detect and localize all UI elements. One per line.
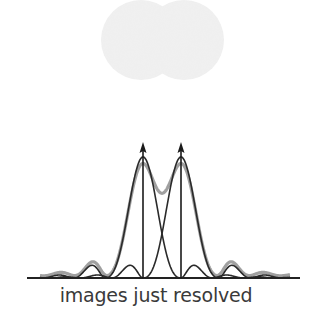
left-peak-arrow (140, 142, 147, 278)
right-airy-curve (40, 157, 290, 278)
right-peak-arrow (178, 142, 185, 278)
diagram-caption: images just resolved (0, 284, 312, 306)
rayleigh-criterion-diagram (0, 0, 312, 332)
airy-disk-spots (100, 0, 226, 82)
